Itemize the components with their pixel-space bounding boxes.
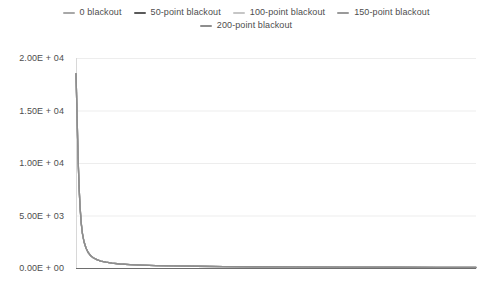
series-line bbox=[76, 74, 476, 268]
chart-container: 0 blackout50-point blackout100-point bla… bbox=[0, 0, 492, 291]
series-line bbox=[76, 74, 476, 268]
series-line bbox=[76, 74, 476, 268]
series-line bbox=[76, 74, 476, 268]
chart-canvas bbox=[0, 0, 492, 291]
series-line bbox=[76, 74, 476, 268]
plot-area: 2.00E + 041.50E + 041.00E + 045.00E + 03… bbox=[0, 0, 492, 291]
